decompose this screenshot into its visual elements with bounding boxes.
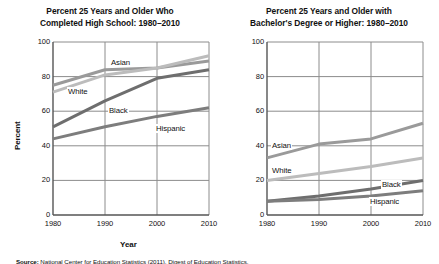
ytick-label: 80 (30, 72, 50, 81)
xtick-label: 2000 (143, 219, 171, 228)
ytick-label: 100 (244, 37, 264, 46)
series-label-black: Black (108, 106, 129, 115)
series-label-white: White (271, 166, 292, 175)
ytick-label: 60 (244, 106, 264, 115)
series-label-black: Black (381, 180, 402, 189)
series-label-hispanic: Hispanic (155, 124, 186, 133)
series-label-asian: Asian (271, 141, 292, 150)
ytick-label: 40 (30, 141, 50, 150)
ytick-label: 80 (244, 72, 264, 81)
xtick-label: 1990 (91, 219, 119, 228)
xtick-label: 1990 (305, 219, 333, 228)
source-note: Source: National Center for Education St… (16, 258, 248, 264)
ytick-label: 20 (244, 175, 264, 184)
series-label-asian: Asian (110, 58, 131, 67)
xtick-label: 2000 (357, 219, 385, 228)
x-axis-label-high-school: Year (120, 240, 137, 249)
ytick-label: 60 (30, 106, 50, 115)
plot-area-bachelors: 100 80 60 40 20 0 1980 1990 2000 2010 As… (219, 0, 439, 252)
ytick-label: 40 (244, 141, 264, 150)
chart-panel-bachelors: Percent 25 Years and Older with Bachelor… (219, 0, 439, 252)
ytick-label: 0 (244, 210, 264, 219)
axis-lines-bachelors (267, 42, 423, 215)
figure-root: Percent 25 Years and Older Who Completed… (0, 0, 439, 264)
ytick-label: 0 (30, 210, 50, 219)
gridlines-bachelors (267, 42, 423, 215)
source-note-label: Source: (16, 258, 39, 264)
ytick-label: 20 (30, 175, 50, 184)
series-label-hispanic: Hispanic (369, 197, 400, 206)
xtick-label: 1980 (253, 219, 281, 228)
ytick-label: 100 (30, 37, 50, 46)
xtick-label: 2010 (409, 219, 437, 228)
y-axis-label-high-school: Percent (13, 121, 22, 150)
source-note-text: National Center for Education Statistics… (40, 258, 248, 264)
xtick-label: 1980 (39, 219, 67, 228)
chart-panel-high-school: Percent 25 Years and Older Who Completed… (0, 0, 220, 252)
series-label-white: White (67, 87, 88, 96)
plot-area-high-school: 100 80 60 40 20 0 1980 1990 2000 2010 As… (0, 0, 220, 252)
